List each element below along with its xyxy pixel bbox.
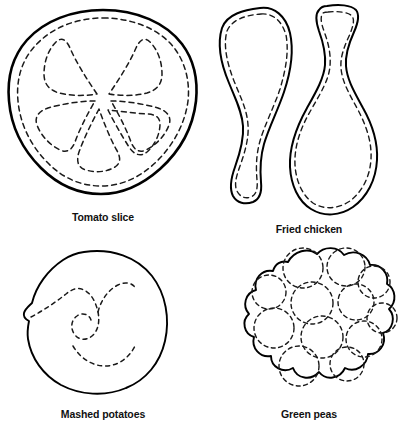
diagram-sheet: Tomato slice Fried chicken Mashed potat: [0, 0, 412, 431]
figure-panel-mashed-potatoes: Mashed potatoes: [0, 240, 206, 431]
tomato-slice-figure: [0, 0, 206, 210]
green-peas-figure: [206, 240, 412, 406]
figure-panel-tomato-slice: Tomato slice: [0, 0, 206, 232]
fried-chicken-figure: [206, 0, 412, 222]
figure-caption-mashed-potatoes: Mashed potatoes: [0, 408, 206, 420]
figure-caption-tomato-slice: Tomato slice: [0, 211, 206, 223]
figure-panel-fried-chicken: Fried chicken: [206, 0, 412, 240]
mashed-potatoes-figure: [0, 240, 206, 406]
figure-caption-fried-chicken: Fried chicken: [206, 223, 412, 235]
figure-caption-green-peas: Green peas: [206, 408, 412, 420]
figure-panel-green-peas: Green peas: [206, 240, 412, 431]
